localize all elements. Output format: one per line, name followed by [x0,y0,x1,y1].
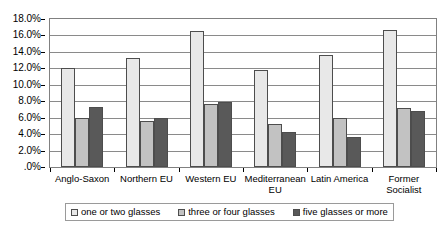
bar [75,118,89,167]
bar [268,124,282,167]
x-axis-category-label: Latin America [307,173,371,184]
bar [89,107,103,167]
y-axis-tick-mark [41,85,45,86]
bar [282,132,296,167]
legend-swatch-icon [293,209,300,216]
y-axis-tick-mark [41,118,45,119]
y-axis-tick-label: 8.0% [18,96,41,106]
bar-group [126,19,168,167]
y-axis-tick-mark [41,68,45,69]
y-axis-tick-label: .0% [24,162,41,172]
y-axis-tick-label: 18.0% [13,14,41,24]
bar [411,111,425,167]
legend-swatch-icon [178,209,185,216]
bar [319,55,333,167]
bar-group [61,19,103,167]
bar [154,118,168,167]
bar [254,70,268,167]
y-axis-tick-label: 4.0% [18,129,41,139]
bar-chart: 18.0%16.0%14.0%12.0%10.0%8.0%6.0%4.0%2.0… [0,0,446,234]
y-axis-tick-label: 14.0% [13,47,41,57]
y-axis-tick-mark [41,151,45,152]
y-axis-tick-mark [41,101,45,102]
y-axis-tick-mark [41,134,45,135]
y-axis-tick-mark [41,19,45,20]
x-axis-category-label: Mediterranean EU [243,173,307,195]
x-axis-category-label: Anglo-Saxon [50,173,114,184]
legend-swatch-icon [71,209,78,216]
y-axis-tick-label: 12.0% [13,63,41,73]
bar-group [190,19,232,167]
y-axis-tick-label: 16.0% [13,30,41,40]
bars-layer [50,19,436,167]
x-axis-category-label: Western EU [179,173,243,184]
bar-group [383,19,425,167]
y-axis-tick-label: 6.0% [18,113,41,123]
y-axis: 18.0%16.0%14.0%12.0%10.0%8.0%6.0%4.0%2.0… [0,18,45,168]
x-axis-category-label: Former Socialist [372,173,436,195]
bar [140,121,154,167]
legend-label: one or two glasses [81,207,160,217]
bar [218,102,232,167]
y-axis-tick-label: 10.0% [13,80,41,90]
x-axis: Anglo-SaxonNorthern EUWestern EUMediterr… [50,170,436,200]
bar [126,58,140,167]
bar [61,68,75,167]
x-axis-tick-mark [307,168,308,172]
y-axis-tick-mark [41,52,45,53]
x-axis-tick-mark [179,168,180,172]
x-axis-tick-mark [114,168,115,172]
chart-legend: one or two glassesthree or four glassesf… [65,203,394,221]
legend-entry[interactable]: five glasses or more [293,207,388,217]
x-axis-tick-mark [243,168,244,172]
y-axis-tick-label: 2.0% [18,146,41,156]
bar [397,108,411,167]
x-axis-tick-mark [50,168,51,172]
bar [347,137,361,167]
bar [204,104,218,167]
x-axis-category-label: Northern EU [114,173,178,184]
x-axis-tick-mark [436,168,437,172]
bar-group [319,19,361,167]
bar [190,31,204,167]
legend-entry[interactable]: three or four glasses [178,207,275,217]
y-axis-tick-mark [41,35,45,36]
legend-label: three or four glasses [188,207,275,217]
bar [333,118,347,167]
legend-entry[interactable]: one or two glasses [71,207,160,217]
x-axis-tick-mark [372,168,373,172]
y-axis-tick-mark [41,167,45,168]
bar-group [254,19,296,167]
legend-label: five glasses or more [303,207,388,217]
bar [383,30,397,167]
